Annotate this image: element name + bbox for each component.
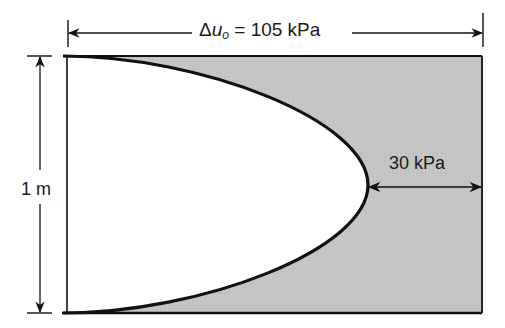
pressure-value: 105 kPa xyxy=(251,19,321,40)
subscript-o: o xyxy=(222,28,229,42)
variable-u: u xyxy=(212,19,223,40)
initial-excess-pore-pressure-label: Δuo = 105 kPa xyxy=(195,18,324,47)
shaded-dissipated-region xyxy=(67,56,482,313)
equals-sign: = xyxy=(229,19,251,40)
dissipated-pressure-label: 30 kPa xyxy=(389,152,445,174)
layer-thickness-label: 1 m xyxy=(21,176,51,202)
delta-symbol: Δ xyxy=(199,19,212,40)
